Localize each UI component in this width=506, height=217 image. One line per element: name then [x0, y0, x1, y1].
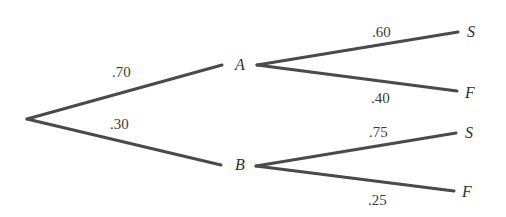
probability-label: .25: [368, 192, 387, 208]
probability-label: .30: [110, 116, 129, 132]
node-label-a-f: F: [464, 84, 475, 101]
node-label-b-f: F: [461, 183, 472, 200]
node-label-a: A: [234, 56, 245, 73]
branch-B-to-B_F: [256, 166, 454, 191]
branch-A-to-A_F: [257, 65, 457, 91]
probability-label: .70: [112, 64, 131, 80]
probability-tree-diagram: .70.30.60.40.75.25ABSFSF: [0, 0, 506, 217]
branch-B-to-B_S: [256, 133, 456, 166]
probability-label: .75: [369, 124, 388, 140]
probability-label: .40: [371, 90, 390, 106]
node-label-a-s: S: [467, 23, 475, 40]
branch-A-to-A_S: [257, 32, 458, 65]
node-label-b-s: S: [465, 124, 473, 141]
node-label-b: B: [235, 156, 245, 173]
probability-label: .60: [372, 24, 391, 40]
